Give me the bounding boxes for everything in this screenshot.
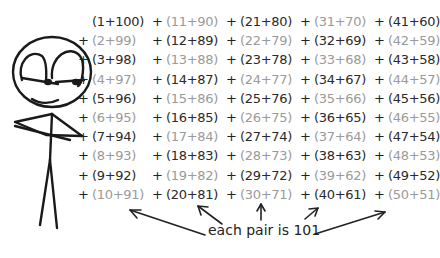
- number-pair: (29+72): [240, 166, 292, 185]
- plus-sign: +: [78, 166, 89, 185]
- plus-sign: +: [78, 31, 89, 50]
- number-pair: (23+78): [240, 50, 292, 69]
- plus-sign: +: [374, 185, 385, 204]
- plus-sign: +: [374, 146, 385, 165]
- number-pair: (4+97): [92, 70, 136, 89]
- number-pair: (34+67): [314, 70, 366, 89]
- number-pair: (31+70): [314, 12, 366, 31]
- plus-sign: +: [226, 146, 237, 165]
- plus-sign: +: [374, 50, 385, 69]
- plus-sign: +: [78, 185, 89, 204]
- number-pair: (7+94): [92, 127, 136, 146]
- number-pair: (35+66): [314, 89, 366, 108]
- plus-sign: +: [152, 70, 163, 89]
- number-pair: (2+99): [92, 31, 136, 50]
- number-pair: (10+91): [92, 185, 144, 204]
- plus-sign: +: [300, 31, 311, 50]
- plus-sign: +: [152, 166, 163, 185]
- number-pair: (32+69): [314, 31, 366, 50]
- plus-sign: +: [152, 12, 163, 31]
- number-pair: (13+88): [166, 50, 218, 69]
- plus-sign: +: [300, 70, 311, 89]
- number-pair: (9+92): [92, 166, 136, 185]
- plus-sign: +: [374, 127, 385, 146]
- number-pair: (50+51): [388, 185, 440, 204]
- number-pair: (19+82): [166, 166, 218, 185]
- plus-sign: +: [152, 185, 163, 204]
- number-pair: (43+58): [388, 50, 440, 69]
- plus-sign: +: [300, 166, 311, 185]
- plus-sign: +: [78, 89, 89, 108]
- plus-sign: +: [374, 70, 385, 89]
- plus-sign: +: [226, 70, 237, 89]
- number-pair: (15+86): [166, 89, 218, 108]
- plus-sign: +: [152, 127, 163, 146]
- plus-sign: +: [300, 146, 311, 165]
- number-pair: (27+74): [240, 127, 292, 146]
- caption-text: each pair is 101: [208, 222, 320, 238]
- plus-sign: +: [78, 108, 89, 127]
- plus-sign: +: [78, 50, 89, 69]
- number-pair: (22+79): [240, 31, 292, 50]
- arrow-icon: [130, 210, 205, 235]
- plus-sign: +: [300, 89, 311, 108]
- plus-sign: +: [226, 108, 237, 127]
- number-pair: (25+76): [240, 89, 292, 108]
- plus-sign: +: [374, 12, 385, 31]
- number-pair: (40+61): [314, 185, 366, 204]
- arrow-icon: [305, 208, 318, 219]
- plus-sign: +: [152, 108, 163, 127]
- number-pair: (16+85): [166, 108, 218, 127]
- plus-sign: +: [226, 50, 237, 69]
- plus-sign: +: [300, 127, 311, 146]
- plus-sign: +: [78, 146, 89, 165]
- number-pair: (14+87): [166, 70, 218, 89]
- plus-sign: +: [226, 185, 237, 204]
- plus-sign: +: [152, 146, 163, 165]
- number-pair: (1+100): [92, 12, 144, 31]
- plus-sign: +: [374, 89, 385, 108]
- number-pair: (45+56): [388, 89, 440, 108]
- plus-sign: +: [300, 12, 311, 31]
- plus-sign: +: [226, 89, 237, 108]
- plus-sign: +: [226, 31, 237, 50]
- plus-sign: +: [226, 12, 237, 31]
- number-pair: (30+71): [240, 185, 292, 204]
- plus-sign: +: [226, 127, 237, 146]
- number-pair: (44+57): [388, 70, 440, 89]
- plus-sign: +: [374, 166, 385, 185]
- number-pair: (11+90): [166, 12, 218, 31]
- number-pair: (6+95): [92, 108, 136, 127]
- plus-sign: +: [78, 127, 89, 146]
- number-pair: (3+98): [92, 50, 136, 69]
- plus-sign: +: [152, 31, 163, 50]
- number-pair: (49+52): [388, 166, 440, 185]
- plus-sign: +: [78, 70, 89, 89]
- number-pair: (24+77): [240, 70, 292, 89]
- plus-sign: +: [374, 108, 385, 127]
- number-pair: (26+75): [240, 108, 292, 127]
- number-pair: (37+64): [314, 127, 366, 146]
- plus-sign: +: [300, 108, 311, 127]
- number-pair: (33+68): [314, 50, 366, 69]
- number-pair: (21+80): [240, 12, 292, 31]
- number-pair: (12+89): [166, 31, 218, 50]
- plus-sign: +: [226, 166, 237, 185]
- number-pair: (5+96): [92, 89, 136, 108]
- number-pair: (46+55): [388, 108, 440, 127]
- number-pair: (42+59): [388, 31, 440, 50]
- plus-sign: +: [300, 185, 311, 204]
- number-pair: (36+65): [314, 108, 366, 127]
- number-pair: (38+63): [314, 146, 366, 165]
- number-pair: (20+81): [166, 185, 218, 204]
- number-pair: (18+83): [166, 146, 218, 165]
- plus-sign: +: [300, 50, 311, 69]
- number-pair: (39+62): [314, 166, 366, 185]
- arrow-icon: [315, 212, 385, 234]
- number-pair: (41+60): [388, 12, 440, 31]
- plus-sign: +: [152, 89, 163, 108]
- number-pair: (48+53): [388, 146, 440, 165]
- number-pair: (28+73): [240, 146, 292, 165]
- number-pair: (47+54): [388, 127, 440, 146]
- plus-sign: +: [152, 50, 163, 69]
